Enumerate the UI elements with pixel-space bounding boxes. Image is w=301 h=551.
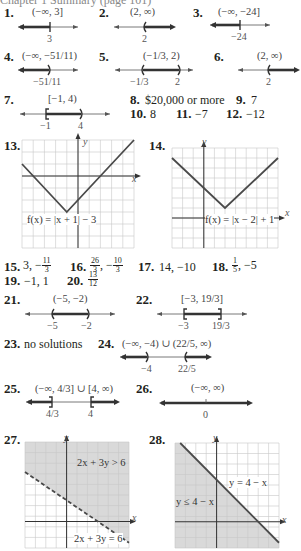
problem-7-point-left: −1	[40, 120, 51, 131]
problem-24-point-left: −4	[141, 363, 152, 374]
problem-15-fraction: 113	[42, 257, 52, 274]
problem-3-number-line	[210, 20, 272, 30]
problem-24-number-line	[120, 352, 212, 362]
problem-1-interval: (−∞, 3]	[32, 6, 63, 17]
problem-24-interval: (−∞, −4) ∪ (22/5, ∞)	[122, 337, 211, 349]
problem-1-number-line	[18, 22, 80, 32]
problem-22-point-right: 19/3	[212, 320, 230, 331]
problem-28-x-label: x	[282, 514, 286, 525]
problem-17-number: 17.	[138, 259, 154, 275]
problem-25-point-right: 4	[88, 408, 93, 419]
denominator: 3	[116, 266, 120, 274]
problem-18-answer-suffix: , −5	[238, 258, 257, 273]
problem-14-x-label: x	[285, 207, 289, 218]
problem-28-number: 28.	[149, 432, 165, 448]
problem-9-answer: 7	[251, 93, 257, 108]
problem-13-graph	[22, 140, 134, 248]
problem-26-point: 0	[203, 409, 208, 420]
problem-23-answer: no solutions	[24, 337, 82, 352]
problem-14-number: 14.	[149, 138, 165, 154]
problem-19-number: 19.	[4, 273, 20, 289]
problem-2-number-line	[114, 22, 176, 32]
problem-7-interval: [−1, 4)	[48, 93, 77, 104]
problem-7-number-line	[20, 109, 112, 119]
problem-20-answer: 1312	[88, 271, 98, 288]
problem-11-answer: −7	[195, 107, 208, 122]
problem-7-point-right: 4	[78, 120, 83, 131]
problem-16-separator: , −	[100, 258, 113, 273]
problem-4-interval: (−∞, −51/11)	[22, 50, 77, 61]
problem-25-number-line	[26, 397, 120, 407]
problem-10-number: 10.	[130, 106, 146, 122]
problem-2-interval: (2, ∞)	[130, 6, 155, 17]
problem-3-number: 3.	[193, 5, 203, 21]
problem-2-number: 2.	[99, 5, 109, 21]
problem-20-number: 20.	[67, 273, 83, 289]
problem-18-number: 18.	[212, 259, 228, 275]
problem-10-answer: 8	[150, 107, 156, 122]
problem-5-number: 5.	[99, 49, 109, 65]
problem-6-number: 6.	[214, 49, 224, 65]
problem-22-number-line	[157, 309, 249, 319]
problem-14-function-label: f(x) = |x − 2| + 1	[205, 214, 274, 225]
problem-26-number-line	[159, 398, 253, 408]
problem-11-number: 11.	[176, 106, 192, 122]
problem-28-region-label: y ≤ 4 − x	[176, 496, 214, 507]
problem-27-x-label: x	[132, 512, 136, 523]
problem-6-interval: (2, ∞)	[257, 50, 282, 61]
problem-6-point: 2	[266, 76, 271, 87]
problem-17-answer: 14, −10	[159, 260, 196, 275]
problem-5-point-right: 2	[175, 76, 180, 87]
problem-13-x-label: x	[132, 173, 136, 184]
problem-5-number-line	[115, 65, 195, 75]
problem-4-point: −51/11	[33, 76, 61, 87]
problem-15-answer: 3, − 113	[23, 257, 51, 274]
problem-27-region-label: 2x + 3y > 6	[77, 457, 126, 468]
problem-20-fraction: 1312	[88, 271, 98, 288]
problem-25-point-left: 4/3	[46, 408, 59, 419]
problem-21-point-left: −5	[47, 320, 58, 331]
problem-3-point: −24	[231, 31, 247, 42]
problem-22-interval: [−3, 19/3]	[181, 293, 223, 304]
problem-15-answer-prefix: 3, −	[23, 258, 42, 273]
page-header-partial: Chapter 1 Summary (page 101)	[0, 0, 151, 8]
problem-24-number: 24.	[98, 336, 114, 352]
problem-13-y-label: y	[83, 136, 87, 147]
problem-13-function-label: f(x) = |x + 1| − 3	[27, 214, 96, 225]
problem-16-fraction-2: 103	[113, 257, 123, 274]
problem-14-y-label: y	[202, 136, 206, 147]
problem-21-number: 21.	[4, 292, 20, 308]
denominator: 12	[89, 280, 97, 288]
problem-2-point: 2	[142, 33, 147, 44]
problem-18-answer: 15 , −5	[232, 257, 257, 274]
problem-4-number: 4.	[4, 49, 14, 65]
problem-28-y-label: y	[213, 432, 217, 443]
problem-27-line-label: 2x + 3y = 6	[74, 533, 123, 544]
problem-21-point-right: −2	[81, 320, 92, 331]
problem-28-line-label: y = 4 − x	[229, 477, 267, 488]
problem-6-number-line	[238, 65, 300, 75]
problem-7-number: 7.	[4, 92, 14, 108]
problem-5-point-left: −1/3	[130, 76, 148, 87]
problem-21-number-line	[25, 309, 117, 319]
problem-26-interval: (−∞, ∞)	[191, 382, 224, 393]
problem-24-point-right: 22/5	[178, 363, 196, 374]
denominator: 3	[45, 266, 49, 274]
problem-19-answer: −1, 1	[24, 274, 49, 289]
problem-4-number-line	[18, 65, 80, 75]
problem-22-point-left: −3	[178, 320, 189, 331]
problem-25-interval: (−∞, 4/3] ∪ [4, ∞)	[35, 382, 113, 394]
problem-1-number: 1.	[4, 5, 14, 21]
problem-27-number: 27.	[4, 432, 20, 448]
problem-13-number: 13.	[4, 138, 20, 154]
problem-1-point: 3	[47, 33, 52, 44]
problem-21-interval: (−5, −2)	[53, 293, 88, 304]
denominator: 5	[233, 266, 237, 274]
problem-3-interval: (−∞, −24]	[218, 6, 260, 17]
problem-5-interval: (−1/3, 2)	[143, 50, 180, 61]
problem-22-number: 22.	[136, 292, 152, 308]
problem-25-number: 25.	[4, 381, 20, 397]
y-axis-arrow	[76, 133, 81, 139]
problem-26-number: 26.	[136, 381, 152, 397]
problem-14-graph	[172, 148, 278, 248]
